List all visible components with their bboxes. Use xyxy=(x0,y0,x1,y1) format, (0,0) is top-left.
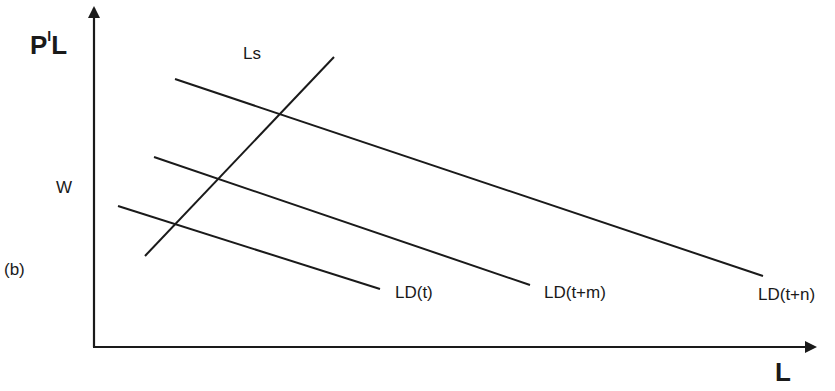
y-axis-label: PIL xyxy=(30,30,67,61)
x-axis-label: L xyxy=(775,357,791,388)
wage-label: W xyxy=(56,178,72,198)
demand-curve-ld-t xyxy=(118,206,380,289)
demand-curve-label-ld-t-m: LD(t+m) xyxy=(544,283,606,303)
demand-curve-label-ld-t-n: LD(t+n) xyxy=(758,285,815,305)
y-axis-label-main: P xyxy=(30,30,47,60)
panel-label: (b) xyxy=(4,260,25,280)
demand-curve-ld-t-n xyxy=(175,79,763,276)
demand-curve-ld-t-m xyxy=(154,157,530,285)
diagram-canvas xyxy=(0,0,835,391)
y-axis-label-superscript: I xyxy=(47,28,51,44)
supply-curve-label: Ls xyxy=(243,44,261,64)
demand-curve-label-ld-t: LD(t) xyxy=(395,283,433,303)
y-axis-label-tail: L xyxy=(51,30,67,60)
supply-curve-ls xyxy=(145,57,334,256)
